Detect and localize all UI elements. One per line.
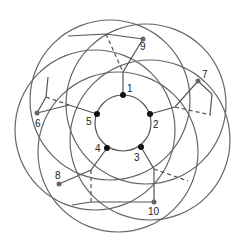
edge-2-7 bbox=[150, 81, 198, 114]
node-8 bbox=[57, 182, 62, 187]
edge-10-left bbox=[72, 202, 154, 205]
graph-edges bbox=[37, 34, 212, 205]
node-label-6: 6 bbox=[35, 118, 41, 129]
node-label-8: 8 bbox=[55, 170, 61, 181]
dashed-edge-right bbox=[175, 107, 211, 115]
node-label-7: 7 bbox=[202, 69, 208, 80]
edge-6-up bbox=[37, 77, 48, 113]
node-1 bbox=[120, 92, 126, 98]
outer-circle-5 bbox=[15, 50, 175, 210]
node-label-10: 10 bbox=[148, 206, 160, 217]
outer-circles bbox=[15, 20, 230, 232]
inner-circle bbox=[95, 95, 151, 151]
outer-circle-3 bbox=[70, 60, 230, 220]
node-6 bbox=[35, 111, 40, 116]
node-label-3: 3 bbox=[134, 152, 140, 163]
node-10 bbox=[152, 200, 157, 205]
node-3 bbox=[138, 144, 144, 150]
node-label-4: 4 bbox=[95, 143, 101, 154]
node-label-2: 2 bbox=[153, 119, 159, 130]
node-7 bbox=[196, 79, 201, 84]
node-5 bbox=[94, 111, 100, 117]
node-label-1: 1 bbox=[127, 83, 133, 94]
overlapping-circles-graph-diagram: 12345678910 bbox=[0, 0, 246, 243]
node-label-5: 5 bbox=[86, 116, 92, 127]
node-2 bbox=[147, 111, 153, 117]
outer-circle-2 bbox=[66, 24, 226, 184]
node-label-9: 9 bbox=[140, 41, 146, 52]
node-4 bbox=[104, 145, 110, 151]
